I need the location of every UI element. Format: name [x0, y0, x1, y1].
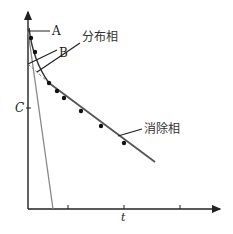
label-distribution-phase: 分布相	[82, 30, 118, 44]
pharmacokinetic-diagram: C t A B 分布相 消除相	[0, 0, 233, 234]
data-point	[47, 81, 51, 85]
elimination-phase-line	[49, 83, 155, 162]
label-elimination-phase: 消除相	[144, 121, 180, 136]
x-axis-label: t	[121, 211, 126, 224]
label-b: B	[59, 46, 68, 60]
data-point	[33, 50, 37, 54]
data-point	[99, 124, 103, 128]
data-point	[79, 109, 83, 113]
data-point	[55, 89, 59, 93]
y-axis-label: C	[15, 101, 24, 115]
axes	[26, 12, 220, 209]
data-point	[122, 141, 126, 145]
elimination-extrapolation-dashed	[28, 64, 49, 83]
label-a: A	[51, 24, 61, 38]
leader-elimination	[118, 129, 142, 136]
data-point	[29, 36, 33, 40]
data-point	[62, 96, 66, 100]
